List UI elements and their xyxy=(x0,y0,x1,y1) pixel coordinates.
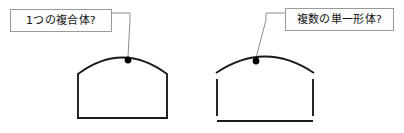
diagram-canvas: 1つの複合体? 複数の単一形体? xyxy=(0,0,404,133)
left-shape-node-dot xyxy=(125,57,132,64)
diagram-vector-layer xyxy=(0,0,404,133)
right-shape-segment-top-arc xyxy=(216,57,314,74)
leader-line-right xyxy=(256,13,285,58)
right-shape-node-dot xyxy=(253,58,260,65)
left-shape-outline xyxy=(78,58,167,119)
leader-line-left xyxy=(112,13,130,57)
